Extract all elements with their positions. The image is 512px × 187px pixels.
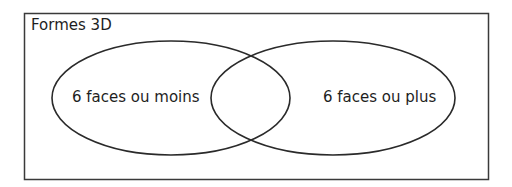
set-right-label: 6 faces ou plus: [323, 90, 436, 105]
universe-title: Formes 3D: [31, 18, 112, 33]
set-left-label: 6 faces ou moins: [72, 90, 200, 105]
